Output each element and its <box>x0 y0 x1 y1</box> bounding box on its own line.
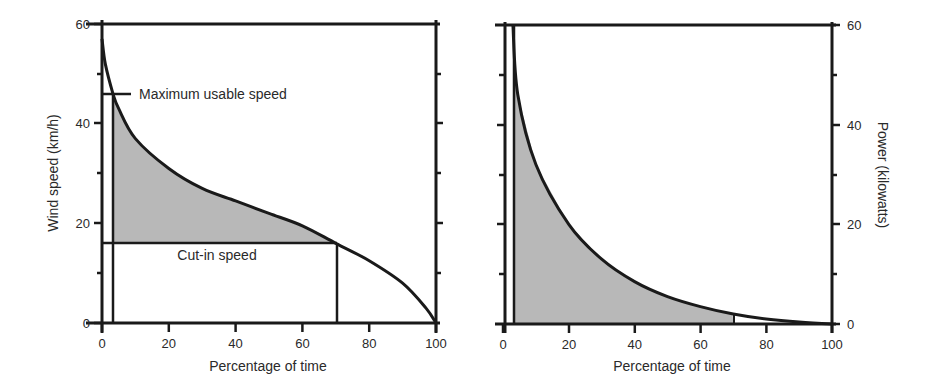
left-plot: 0 20 40 60 0 20 40 60 80 100 Percentage … <box>45 17 447 374</box>
right-ytick-0: 0 <box>847 317 854 332</box>
right-ytick-60: 60 <box>847 18 861 33</box>
left-ytick-40: 40 <box>76 116 90 131</box>
left-xtick-0: 0 <box>98 336 105 351</box>
left-xtick-100: 100 <box>425 336 447 351</box>
right-x-axis-label: Percentage of time <box>613 358 731 374</box>
left-ytick-20: 20 <box>76 216 90 231</box>
right-plot: 0 20 40 60 0 20 40 60 80 100 Percentage … <box>495 18 891 374</box>
right-xtick-100: 100 <box>821 337 843 352</box>
right-xtick-80: 80 <box>759 337 773 352</box>
right-xtick-20: 20 <box>562 337 576 352</box>
cut-in-speed-label: Cut-in speed <box>177 247 256 263</box>
left-ytick-0: 0 <box>83 316 90 331</box>
left-xtick-40: 40 <box>228 336 242 351</box>
right-y-axis-label: Power (kilowatts) <box>875 122 891 229</box>
right-ytick-40: 40 <box>847 118 861 133</box>
right-xtick-40: 40 <box>628 337 642 352</box>
max-usable-speed-label: Maximum usable speed <box>139 86 287 102</box>
right-ytick-20: 20 <box>847 217 861 232</box>
right-xtick-60: 60 <box>693 337 707 352</box>
left-xtick-60: 60 <box>295 336 309 351</box>
left-y-axis-label: Wind speed (km/h) <box>45 114 61 231</box>
left-xtick-80: 80 <box>362 336 376 351</box>
left-x-axis-label: Percentage of time <box>209 358 327 374</box>
right-xtick-0: 0 <box>499 337 506 352</box>
chart-canvas: 0 20 40 60 0 20 40 60 80 100 Percentage … <box>0 0 933 392</box>
left-ytick-60: 60 <box>76 17 90 32</box>
left-shaded-area <box>113 94 336 243</box>
right-shaded-area <box>514 39 733 324</box>
left-xtick-20: 20 <box>162 336 176 351</box>
